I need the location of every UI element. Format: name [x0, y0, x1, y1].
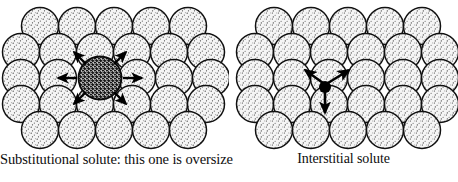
lattice-row	[237, 60, 458, 97]
matrix-atom	[170, 112, 207, 149]
matrix-atom	[330, 112, 367, 149]
panel-substitutional: Substitutional solute: this one is overs…	[0, 0, 229, 182]
substitutional-lattice-diagram	[0, 0, 229, 152]
matrix-atom	[404, 112, 441, 149]
caption-interstitial: Interstitial solute	[229, 150, 458, 168]
panel-interstitial: Interstitial solute	[229, 0, 458, 182]
interstitial-lattice-diagram	[229, 0, 458, 152]
matrix-atom	[133, 112, 170, 149]
solute-lattice-figure: Substitutional solute: this one is overs…	[0, 0, 458, 182]
matrix-atom	[59, 112, 96, 149]
matrix-atom	[293, 112, 330, 149]
matrix-atom	[22, 112, 59, 149]
matrix-atom	[367, 112, 404, 149]
matrix-atom	[256, 112, 293, 149]
lattice-row	[22, 112, 207, 149]
caption-substitutional: Substitutional solute: this one is overs…	[0, 150, 229, 168]
lattice-row	[256, 112, 441, 149]
interstitial-solute-atom	[319, 81, 331, 93]
matrix-atom	[96, 112, 133, 149]
